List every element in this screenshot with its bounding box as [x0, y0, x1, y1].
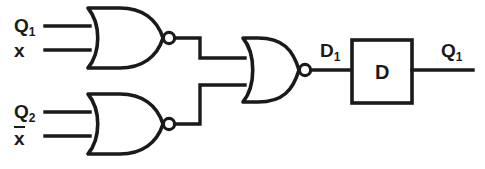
input-label-xbar: x	[14, 126, 25, 148]
nor-gate-top	[88, 8, 163, 68]
flipflop-type-letter: D	[375, 61, 389, 84]
nor-gate-bottom	[88, 94, 163, 154]
signal-label-d1: D1	[320, 41, 340, 60]
circuit-schematic-svg	[0, 0, 485, 169]
inversion-bubble-output	[299, 64, 310, 75]
inversion-bubble-bottom	[163, 118, 174, 129]
input-label-q2: Q2	[14, 102, 35, 121]
nor-gate-output	[243, 38, 299, 102]
input-label-x: x	[14, 41, 25, 60]
wire-bottom-nor-to-output-nor	[175, 85, 245, 124]
sequential-logic-circuit-figure: Q1 x Q2 x D1 D Q1	[0, 0, 485, 169]
inversion-bubble-top	[163, 32, 174, 43]
wire-top-nor-to-output-nor	[175, 38, 245, 58]
output-label-q1: Q1	[441, 41, 462, 60]
input-label-q1: Q1	[14, 16, 35, 35]
